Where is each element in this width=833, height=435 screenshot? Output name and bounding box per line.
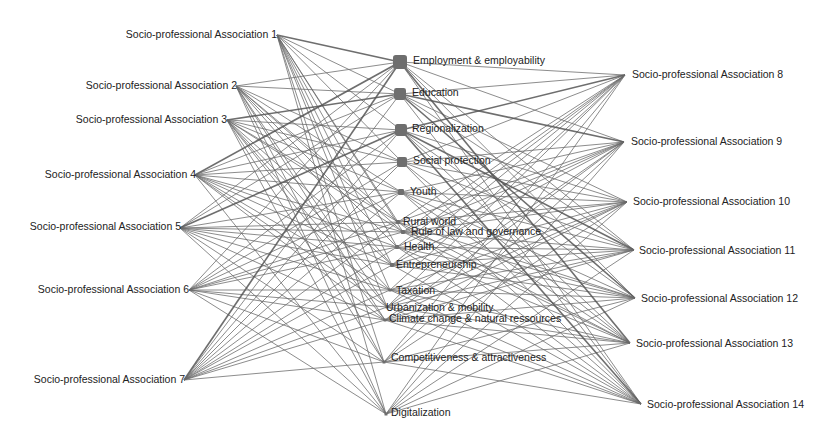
topic-node-marker — [394, 88, 406, 100]
left-node-label-4: Socio-professional Association 4 — [45, 168, 196, 180]
topic-node-marker — [393, 55, 407, 69]
topic-label-rule-of-law: Rule of law and governance — [411, 225, 541, 237]
edge — [195, 175, 386, 414]
topic-node-marker — [384, 319, 387, 322]
topic-label-health: Health — [404, 240, 435, 252]
topic-label-climate: Climate change & natural ressources — [389, 312, 561, 324]
right-node-label-13: Socio-professional Association 13 — [636, 337, 793, 349]
right-node-label-9: Socio-professional Association 9 — [631, 135, 782, 147]
topic-label-social-protection: Social protection — [413, 154, 491, 166]
edge — [189, 162, 402, 290]
topic-label-competitiveness: Competitiveness & attractiveness — [391, 351, 546, 363]
topic-node-marker — [395, 124, 407, 136]
right-node-label-8: Socio-professional Association 8 — [632, 68, 783, 80]
topic-label-employment: Employment & employability — [413, 54, 546, 66]
topic-label-regionalization: Regionalization — [412, 122, 484, 134]
topic-node-marker — [396, 220, 400, 224]
edge — [227, 120, 401, 192]
left-node-label-3: Socio-professional Association 3 — [76, 113, 227, 125]
topic-node-marker — [385, 413, 388, 416]
edge — [277, 35, 384, 362]
topic-node-marker — [398, 189, 404, 195]
topic-label-education: Education — [412, 86, 459, 98]
topic-node-marker — [395, 245, 399, 249]
right-node-label-12: Socio-professional Association 12 — [641, 292, 798, 304]
edge — [189, 247, 397, 290]
right-node-label-14: Socio-professional Association 14 — [647, 398, 804, 410]
edge — [184, 130, 401, 380]
edge — [384, 362, 641, 404]
topic-node-marker — [383, 361, 386, 364]
topic-label-youth: Youth — [410, 185, 437, 197]
left-node-label-2: Socio-professional Association 2 — [86, 79, 237, 91]
edge — [227, 94, 400, 120]
left-node-label-7: Socio-professional Association 7 — [34, 373, 185, 385]
right-node-label-11: Socio-professional Association 11 — [639, 244, 795, 256]
topic-node-marker — [389, 289, 392, 292]
edge — [277, 35, 400, 62]
topic-label-entrepreneurship: Entrepreneurship — [396, 258, 477, 270]
edge — [236, 86, 400, 94]
network-diagram: Socio-professional Association 1 Socio-p… — [0, 0, 833, 435]
topic-node-marker — [401, 230, 405, 234]
topic-label-taxation: Taxation — [396, 284, 435, 296]
edge — [184, 265, 392, 380]
topic-node-marker — [390, 263, 394, 267]
edge — [227, 120, 392, 265]
left-node-label-6: Socio-professional Association 6 — [38, 283, 189, 295]
right-node-label-10: Socio-professional Association 10 — [633, 195, 790, 207]
edge — [184, 247, 397, 380]
topic-node-marker — [397, 157, 407, 167]
left-node-label-1: Socio-professional Association 1 — [126, 28, 277, 40]
left-node-label-5: Socio-professional Association 5 — [30, 220, 181, 232]
edge — [236, 86, 385, 320]
topic-label-digitalization: Digitalization — [391, 406, 451, 418]
node-labels-layer: Socio-professional Association 1 Socio-p… — [30, 28, 804, 418]
edge — [277, 35, 387, 307]
